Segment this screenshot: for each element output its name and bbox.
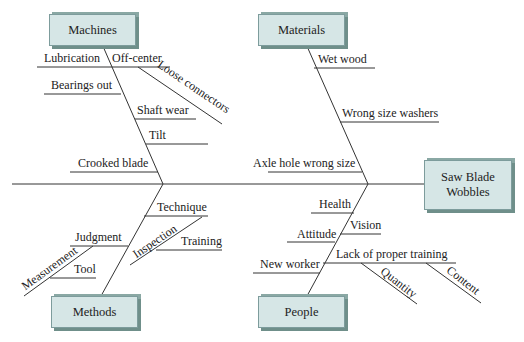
cause-shaft-wear: Shaft wear: [137, 104, 189, 117]
effect-label-line1: Saw Blade: [441, 170, 495, 185]
cause-tilt: Tilt: [149, 129, 166, 142]
effect-box: Saw Blade Wobbles: [424, 160, 512, 210]
category-box-methods: Methods: [51, 296, 138, 328]
cause-training: Training: [181, 235, 222, 248]
cause-new-worker: New worker: [260, 258, 320, 271]
cause-wrong-size-washers: Wrong size washers: [342, 107, 438, 120]
cause-vision: Vision: [350, 219, 381, 232]
category-label-people: People: [284, 305, 318, 320]
cause-axle-hole-wrong-size: Axle hole wrong size: [253, 157, 355, 170]
category-box-people: People: [258, 296, 345, 328]
cause-crooked-blade: Crooked blade: [78, 157, 148, 170]
cause-attitude: Attitude: [297, 228, 336, 241]
category-box-materials: Materials: [258, 14, 345, 46]
category-label-machines: Machines: [68, 23, 117, 38]
cause-bearings-out: Bearings out: [51, 79, 112, 92]
cause-lubrication: Lubrication: [44, 52, 100, 65]
cause-health: Health: [319, 198, 351, 211]
category-label-methods: Methods: [73, 305, 117, 320]
cause-judgment: Judgment: [75, 231, 122, 244]
effect-label-line2: Wobbles: [446, 185, 489, 200]
cause-technique: Technique: [157, 201, 207, 214]
category-box-machines: Machines: [49, 14, 136, 46]
cause-tool: Tool: [74, 263, 96, 276]
cause-wet-wood: Wet wood: [318, 53, 367, 66]
category-label-materials: Materials: [278, 23, 325, 38]
cause-off-center: Off-center: [112, 52, 162, 65]
cause-lack-of-proper-training: Lack of proper training: [336, 248, 448, 261]
